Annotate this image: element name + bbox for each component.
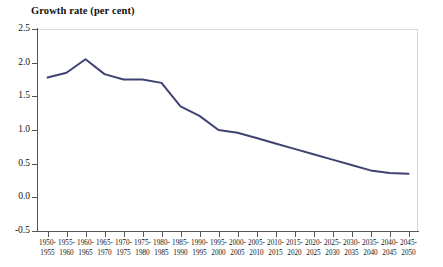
y-axis-tick	[32, 130, 37, 131]
x-axis-tick	[295, 232, 296, 237]
x-axis-tick	[257, 232, 258, 237]
x-axis-tick	[143, 232, 144, 237]
x-axis-tick	[219, 232, 220, 237]
x-axis-tick	[124, 232, 125, 237]
x-axis-tick	[276, 232, 277, 237]
x-axis-tick	[86, 232, 87, 237]
x-axis-tick	[352, 232, 353, 237]
y-axis-tick	[32, 29, 37, 30]
y-axis-tick	[32, 96, 37, 97]
x-axis-tick	[105, 232, 106, 237]
x-axis-tick	[314, 232, 315, 237]
x-axis-tick	[48, 232, 49, 237]
x-axis-tick	[409, 232, 410, 237]
x-axis-tick	[371, 232, 372, 237]
x-axis-tick	[333, 232, 334, 237]
x-axis-tick-label-line: 2045-	[392, 239, 426, 249]
y-axis-tick	[32, 63, 37, 64]
y-axis-tick	[32, 164, 37, 165]
series-layer	[0, 0, 443, 267]
x-axis-tick-label-line: 2050	[392, 249, 426, 259]
growth-rate-line	[48, 59, 409, 173]
x-axis-tick	[390, 232, 391, 237]
x-axis-tick	[181, 232, 182, 237]
y-axis-tick	[32, 231, 37, 232]
x-axis-tick	[238, 232, 239, 237]
x-axis-tick	[200, 232, 201, 237]
y-axis-tick	[32, 197, 37, 198]
chart-figure: Growth rate (per cent) 2.52.01.51.00.50.…	[0, 0, 443, 267]
x-axis-tick	[162, 232, 163, 237]
x-axis-tick-label: 2045-2050	[392, 239, 426, 258]
x-axis-tick	[67, 232, 68, 237]
